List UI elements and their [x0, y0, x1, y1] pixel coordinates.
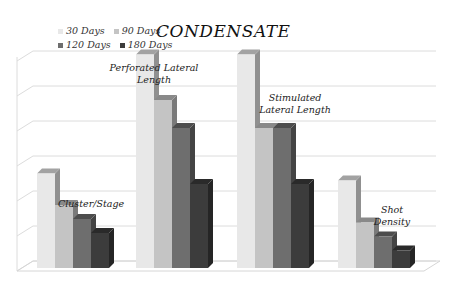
bar-90-days — [55, 205, 73, 268]
legend-item-90-days: 90 Days — [114, 24, 161, 38]
bar-180-days — [91, 233, 109, 268]
bar-120-days — [172, 128, 190, 268]
gridline-wall — [17, 121, 33, 131]
bar-120-days — [273, 128, 291, 268]
gridline-wall — [17, 51, 33, 61]
legend-swatch — [58, 29, 63, 34]
bar-90-days — [356, 223, 374, 269]
bar-120-days — [374, 237, 392, 269]
bar-90-days — [255, 128, 273, 268]
legend-swatch — [58, 43, 63, 48]
bar-30-days — [237, 55, 255, 269]
category-label-cluster-stage: Cluster/Stage — [56, 198, 126, 210]
gridline-wall — [17, 191, 33, 201]
category-label-perforated-lateral-length: Perforated Lateral Length — [104, 62, 204, 86]
bar-180-days — [392, 251, 410, 269]
bar-30-days — [338, 181, 356, 269]
bar-side — [109, 228, 114, 268]
bar-30-days — [37, 174, 55, 269]
gridline-wall — [17, 86, 33, 96]
bar-side — [309, 179, 314, 268]
bar-30-days — [136, 55, 154, 269]
gridline-wall — [17, 226, 33, 236]
bar-90-days — [154, 100, 172, 268]
bar-180-days — [190, 184, 208, 268]
bar-120-days — [73, 219, 91, 268]
legend-swatch — [114, 29, 119, 34]
bar-180-days — [291, 184, 309, 268]
category-label-stimulated-lateral-length: Stimulated Lateral Length — [255, 92, 335, 116]
chart-legend: 30 Days 90 Days 120 Days 180 Days — [58, 24, 178, 52]
legend-item-30-days: 30 Days — [58, 24, 105, 38]
legend-swatch — [120, 43, 125, 48]
legend-item-120-days: 120 Days — [58, 38, 111, 52]
legend-item-180-days: 180 Days — [120, 38, 173, 52]
gridline-wall — [17, 156, 33, 166]
category-label-shot-density: Shot Density — [362, 204, 422, 228]
bar-side — [208, 179, 213, 268]
